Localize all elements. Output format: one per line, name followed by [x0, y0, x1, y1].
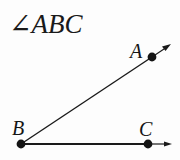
point-label-c: C: [139, 119, 152, 139]
point-label-a: A: [130, 41, 142, 61]
ray-ba-segment: [21, 57, 152, 144]
ray-bc-arrowhead-icon: [164, 142, 172, 147]
vertex-b-dot: [17, 140, 26, 149]
point-a-dot: [148, 53, 157, 62]
angle-diagram: ∠ABC A B C: [0, 0, 180, 160]
point-c-dot: [144, 140, 153, 149]
geometry-canvas: [0, 0, 180, 160]
point-label-b: B: [12, 118, 24, 138]
